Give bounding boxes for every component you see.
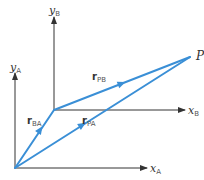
y-b-axis-label: yB [49,5,60,18]
vector-r-pb-label: rPB [92,72,106,84]
y-a-axis-label: yA [10,62,21,75]
x-b-sub: B [194,110,199,118]
vector-r-pa-label: rPA [82,116,96,128]
x-a-sub: A [156,168,161,176]
relative-position-diagram: yB yA xB xA P rPB rBA rPA [0,0,204,180]
arrowhead-r-pb [117,79,127,88]
frame-b-axes [54,17,185,110]
x-a-axis-label: xA [150,163,161,176]
y-a-sub: A [16,67,21,75]
r-pa-sub: PA [87,120,96,128]
vector-r-ba-label: rBA [27,116,42,128]
r-pb-sub: PB [97,76,106,84]
x-b-axis-label: xB [188,105,199,118]
point-p-label: P [196,50,204,62]
r-ba-sub: BA [32,120,42,128]
diagram-canvas [0,0,204,180]
y-b-sub: B [55,10,60,18]
